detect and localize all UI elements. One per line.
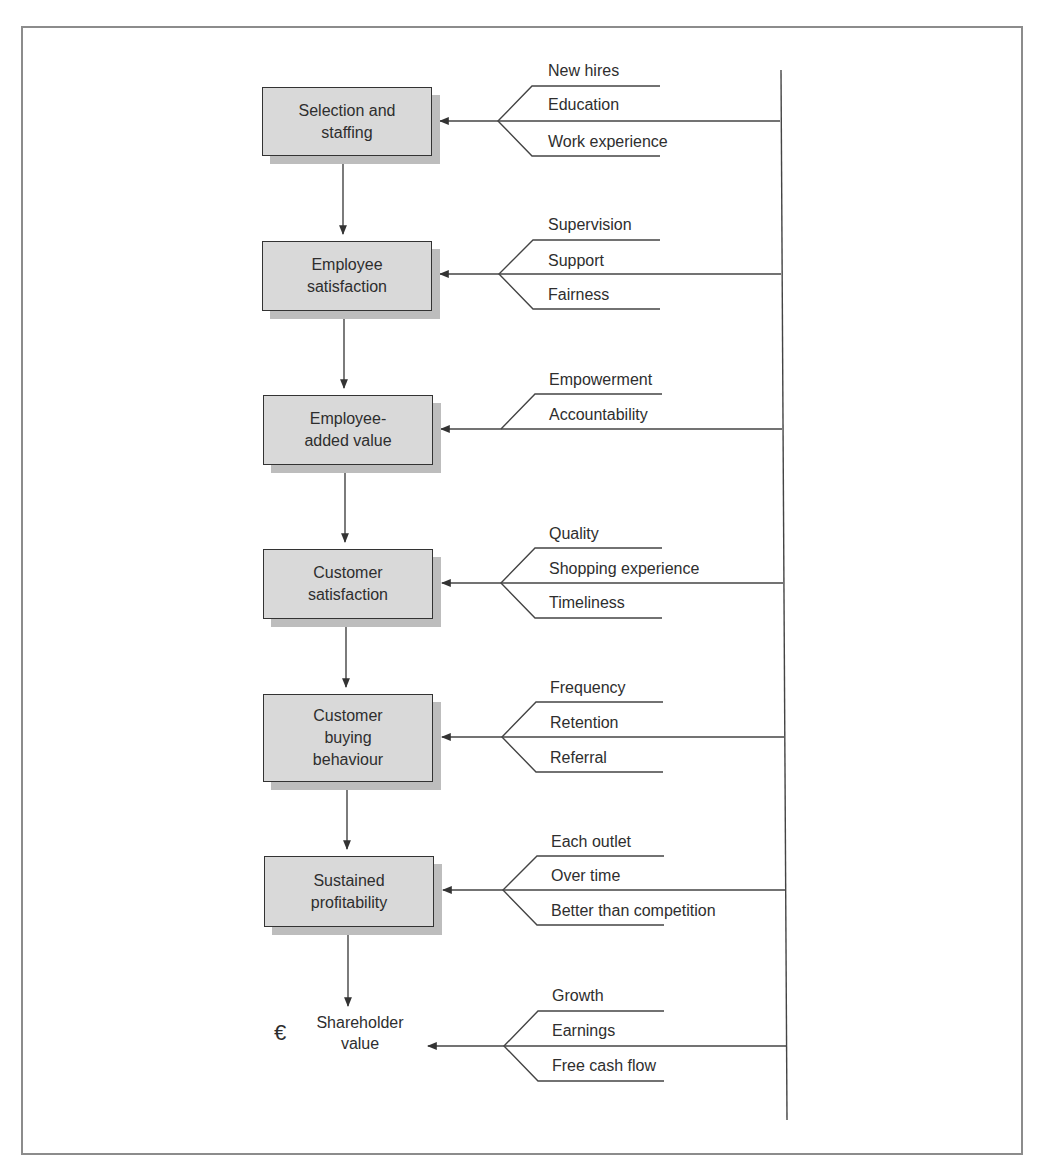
driver-label: Referral (550, 749, 607, 767)
stage-box-customer-satisfaction: Customersatisfaction (263, 549, 433, 619)
stage-box-customer-buying-behaviour: Customerbuyingbehaviour (263, 694, 433, 782)
stage-label: profitability (311, 892, 387, 914)
driver-label: Quality (549, 525, 599, 543)
stage-label: Selection and (299, 100, 396, 122)
stage-box-employee-added-value: Employee-added value (263, 395, 433, 465)
connector-lines (0, 0, 1045, 1170)
driver-label: Accountability (549, 406, 648, 424)
driver-label: Better than competition (551, 902, 716, 920)
driver-label: Work experience (548, 133, 668, 151)
driver-label: Growth (552, 987, 604, 1005)
driver-label: Supervision (548, 216, 632, 234)
terminal-shareholder-value: Shareholder value (290, 1012, 430, 1054)
driver-label: Frequency (550, 679, 626, 697)
stage-label: Employee- (304, 408, 391, 430)
driver-label: Support (548, 252, 604, 270)
driver-label: Retention (550, 714, 619, 732)
stage-label: satisfaction (308, 584, 388, 606)
stage-label: Customer (308, 562, 388, 584)
driver-label: Over time (551, 867, 620, 885)
stage-label: satisfaction (307, 276, 387, 298)
driver-label: Each outlet (551, 833, 631, 851)
stage-label: staffing (299, 122, 396, 144)
driver-label: Shopping experience (549, 560, 699, 578)
driver-label: Timeliness (549, 594, 625, 612)
driver-label: Fairness (548, 286, 609, 304)
stage-label: behaviour (313, 749, 383, 771)
driver-label: New hires (548, 62, 619, 80)
euro-icon: € (274, 1020, 286, 1046)
driver-label: Earnings (552, 1022, 615, 1040)
driver-label: Empowerment (549, 371, 652, 389)
stage-box-selection-and-staffing: Selection andstaffing (262, 87, 432, 156)
driver-label: Education (548, 96, 619, 114)
stage-box-sustained-profitability: Sustainedprofitability (264, 856, 434, 927)
stage-label: added value (304, 430, 391, 452)
stage-label: buying (313, 727, 383, 749)
stage-box-employee-satisfaction: Employeesatisfaction (262, 241, 432, 311)
terminal-label: Shareholder (290, 1012, 430, 1033)
stage-label: Customer (313, 705, 383, 727)
spine-line (781, 70, 787, 1120)
stage-label: Employee (307, 254, 387, 276)
driver-label: Free cash flow (552, 1057, 656, 1075)
terminal-label: value (290, 1033, 430, 1054)
stage-label: Sustained (311, 870, 387, 892)
